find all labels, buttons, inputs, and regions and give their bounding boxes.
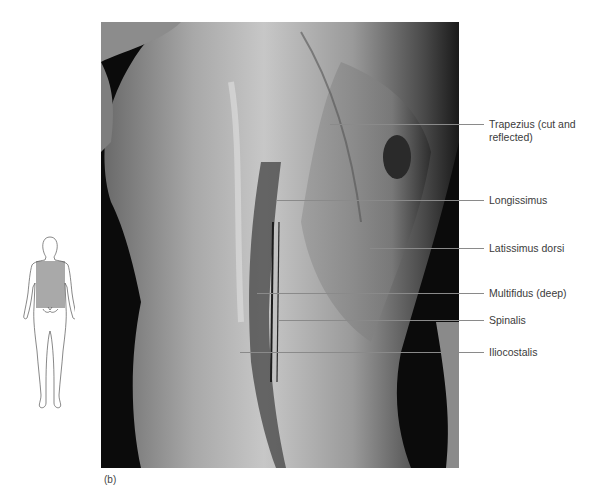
leader-line-multifidus [257, 293, 484, 294]
label-trapezius-line2: reflected) [489, 131, 576, 144]
label-iliocostalis: Iliocostalis [489, 346, 537, 359]
leader-line-longissimus [276, 200, 484, 201]
label-trapezius-line1: Trapezius (cut and [489, 118, 576, 131]
leader-line-trapezius [330, 124, 484, 125]
highlighted-back-region [36, 261, 65, 308]
label-multifidus: Multifidus (deep) [489, 287, 567, 300]
label-longissimus: Longissimus [489, 194, 547, 207]
dissection-photo [101, 22, 459, 468]
leader-line-spinalis [278, 320, 484, 321]
orientation-body-diagram [15, 235, 75, 415]
panel-label: (b) [104, 474, 116, 485]
label-spinalis: Spinalis [489, 314, 526, 327]
leader-line-iliocostalis [240, 352, 484, 353]
leader-line-latissimus [370, 248, 484, 249]
label-latissimus-dorsi: Latissimus dorsi [489, 242, 564, 255]
label-trapezius: Trapezius (cut and reflected) [489, 118, 576, 143]
